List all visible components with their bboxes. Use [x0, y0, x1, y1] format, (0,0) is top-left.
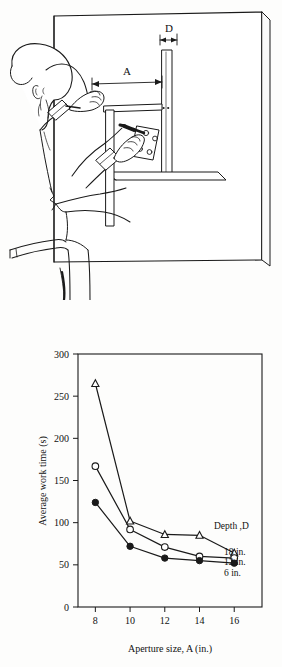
- dimension-d-label: D: [165, 22, 173, 34]
- x-tick-label: 10: [125, 615, 135, 626]
- data-marker-filled-circle: [162, 555, 168, 561]
- data-marker-open-circle: [161, 544, 168, 551]
- legend-entry-label: 6 in.: [224, 568, 241, 578]
- x-axis-tick-labels: 810121416: [93, 615, 239, 626]
- y-axis-tick-labels: 050100150200250300: [54, 349, 69, 613]
- average-work-time-chart: 050100150200250300 810121416 Average wor…: [0, 300, 282, 667]
- figure-page: A D 050100150200250300: [0, 0, 282, 667]
- x-tick-label: 16: [229, 615, 239, 626]
- shelf-board: [108, 172, 226, 180]
- x-axis-title: Aperture size, A (in.): [128, 643, 212, 655]
- data-marker-open-triangle: [126, 517, 133, 524]
- y-tick-label: 0: [64, 602, 69, 613]
- y-tick-label: 150: [54, 475, 69, 486]
- legend-title: Depth ,D: [214, 521, 249, 531]
- data-marker-open-triangle: [92, 380, 99, 387]
- worker-aperture-illustration: A D: [0, 0, 282, 300]
- data-marker-open-circle: [92, 463, 99, 470]
- legend-entry-label: 18 in.: [224, 547, 246, 557]
- data-marker-filled-circle: [196, 557, 202, 563]
- y-tick-label: 100: [54, 517, 69, 528]
- x-axis-ticks: [95, 607, 234, 612]
- x-tick-label: 12: [160, 615, 170, 626]
- y-axis-title: Average work time (s): [37, 436, 49, 526]
- legend-entry-label: 12 in.: [224, 557, 246, 567]
- chart-legend: Depth ,D18 in.12 in.6 in.: [214, 521, 249, 578]
- x-tick-label: 8: [93, 615, 98, 626]
- y-tick-label: 50: [59, 559, 69, 570]
- y-tick-label: 250: [54, 391, 69, 402]
- y-tick-label: 300: [54, 349, 69, 360]
- y-axis-ticks: [73, 354, 78, 607]
- data-marker-filled-circle: [127, 543, 133, 549]
- vertical-board: [162, 50, 172, 178]
- data-marker-filled-circle: [92, 499, 98, 505]
- x-tick-label: 14: [195, 615, 205, 626]
- data-marker-open-circle: [127, 526, 134, 533]
- dimension-a-label: A: [123, 65, 131, 77]
- y-tick-label: 200: [54, 433, 69, 444]
- chart-series-markers: [92, 380, 238, 567]
